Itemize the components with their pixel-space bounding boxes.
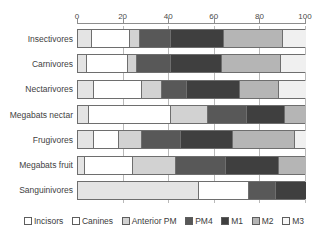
bar-segment-anterior-pm bbox=[128, 55, 137, 72]
legend-swatch-icon bbox=[122, 217, 130, 225]
bar-segment-m2 bbox=[222, 55, 281, 72]
bar-segment-m2 bbox=[233, 131, 295, 148]
bar-segment-m3 bbox=[283, 30, 306, 47]
legend-label: M3 bbox=[292, 217, 304, 226]
bar-segment-canines bbox=[92, 30, 131, 47]
legend-swatch-icon bbox=[185, 217, 193, 225]
legend-item-canines[interactable]: Canines bbox=[72, 217, 113, 226]
chart-legend: IncisorsCaninesAnterior PMPM4M1M2M3 bbox=[24, 213, 304, 229]
stacked-bar bbox=[77, 130, 305, 149]
bar-segment-m3 bbox=[281, 55, 306, 72]
bar-segment-anterior-pm bbox=[133, 157, 176, 174]
bar-segment-pm4 bbox=[208, 106, 247, 123]
bar-segment-incisors bbox=[78, 30, 92, 47]
stacked-bar bbox=[77, 105, 305, 124]
bar-segment-canines bbox=[89, 106, 171, 123]
bar-segment-incisors bbox=[78, 182, 199, 199]
bar-row bbox=[77, 156, 305, 175]
bar-segment-anterior-pm bbox=[142, 81, 163, 98]
bar-segment-m2 bbox=[240, 81, 279, 98]
bar-segment-pm4 bbox=[137, 55, 171, 72]
legend-item-m1[interactable]: M1 bbox=[221, 217, 243, 226]
bar-segment-canines bbox=[199, 182, 249, 199]
legend-swatch-icon bbox=[282, 217, 290, 225]
x-tick-mark bbox=[305, 18, 306, 23]
category-label: Sanguinivores bbox=[1, 185, 73, 195]
stacked-bar bbox=[77, 156, 305, 175]
legend-swatch-icon bbox=[252, 217, 260, 225]
x-tick-mark bbox=[168, 18, 169, 23]
bar-segment-m3 bbox=[279, 81, 306, 98]
stacked-bar-chart: 020406080100 InsectivoresCarnivoresNecta… bbox=[0, 0, 316, 236]
category-axis-labels: InsectivoresCarnivoresNectarivoresMegaba… bbox=[0, 26, 73, 203]
bar-segment-m1 bbox=[226, 157, 278, 174]
legend-label: Incisors bbox=[34, 217, 63, 226]
bar-segment-m2 bbox=[279, 157, 306, 174]
bar-segment-pm4 bbox=[140, 30, 172, 47]
bar-segment-incisors bbox=[78, 131, 94, 148]
bar-segment-pm4 bbox=[249, 182, 276, 199]
legend-item-pm4[interactable]: PM4 bbox=[185, 217, 212, 226]
legend-label: M1 bbox=[231, 217, 243, 226]
bar-segment-incisors bbox=[78, 157, 85, 174]
bar-segment-canines bbox=[94, 81, 142, 98]
legend-label: PM4 bbox=[195, 217, 212, 226]
bar-row bbox=[77, 80, 305, 99]
bar-segment-pm4 bbox=[176, 157, 226, 174]
category-label: Frugivores bbox=[1, 135, 73, 145]
bar-segment-pm4 bbox=[162, 81, 187, 98]
bar-segment-pm4 bbox=[142, 131, 181, 148]
legend-swatch-icon bbox=[72, 217, 80, 225]
legend-item-anterior-pm[interactable]: Anterior PM bbox=[122, 217, 177, 226]
category-label: Insectivores bbox=[1, 34, 73, 44]
bar-segment-m1 bbox=[171, 55, 221, 72]
bar-segment-m3 bbox=[295, 131, 306, 148]
stacked-bar bbox=[77, 54, 305, 73]
legend-swatch-icon bbox=[221, 217, 229, 225]
legend-item-m3[interactable]: M3 bbox=[282, 217, 304, 226]
legend-label: M2 bbox=[262, 217, 274, 226]
bar-segment-anterior-pm bbox=[119, 131, 142, 148]
x-axis-line bbox=[77, 23, 306, 24]
bar-segment-m2 bbox=[285, 106, 306, 123]
bar-segment-m1 bbox=[181, 131, 233, 148]
x-tick-mark bbox=[123, 18, 124, 23]
bar-segment-m1 bbox=[247, 106, 286, 123]
bar-segment-canines bbox=[85, 157, 133, 174]
legend-label: Anterior PM bbox=[132, 217, 177, 226]
bar-segment-anterior-pm bbox=[171, 106, 207, 123]
bar-segment-incisors bbox=[78, 106, 89, 123]
x-tick-mark bbox=[77, 18, 78, 23]
stacked-bar bbox=[77, 181, 305, 200]
category-label: Carnivores bbox=[1, 59, 73, 69]
bar-segment-canines bbox=[87, 55, 128, 72]
bar-segment-m2 bbox=[224, 30, 283, 47]
category-label: Megabats nectar bbox=[1, 110, 73, 120]
bar-segment-m1 bbox=[171, 30, 223, 47]
legend-label: Canines bbox=[82, 217, 113, 226]
bar-segment-incisors bbox=[78, 55, 87, 72]
category-label: Nectarivores bbox=[1, 84, 73, 94]
bar-row bbox=[77, 105, 305, 124]
bar-row bbox=[77, 181, 305, 200]
legend-item-m2[interactable]: M2 bbox=[252, 217, 274, 226]
x-tick-mark bbox=[214, 18, 215, 23]
bar-segment-incisors bbox=[78, 81, 94, 98]
bar-segment-m1 bbox=[187, 81, 239, 98]
plot-area bbox=[77, 26, 305, 203]
bar-segment-anterior-pm bbox=[130, 30, 139, 47]
bar-row bbox=[77, 29, 305, 48]
stacked-bar bbox=[77, 29, 305, 48]
legend-swatch-icon bbox=[24, 217, 32, 225]
legend-item-incisors[interactable]: Incisors bbox=[24, 217, 63, 226]
bar-row bbox=[77, 54, 305, 73]
x-tick-mark bbox=[259, 18, 260, 23]
stacked-bar bbox=[77, 80, 305, 99]
category-label: Megabats fruit bbox=[1, 160, 73, 170]
bar-segment-m1 bbox=[276, 182, 306, 199]
bar-row bbox=[77, 130, 305, 149]
bar-segment-canines bbox=[94, 131, 119, 148]
